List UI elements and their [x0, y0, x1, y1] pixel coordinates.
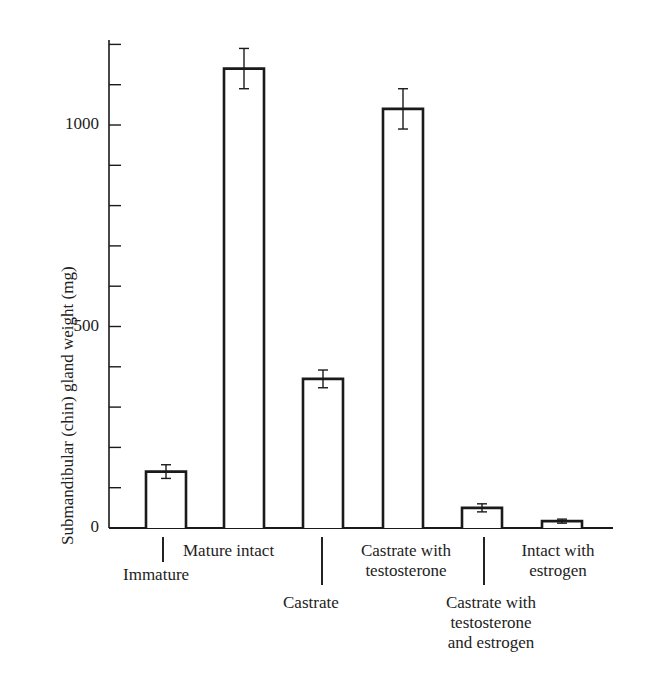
category-label-immature: Immature: [123, 565, 189, 585]
bar: [224, 69, 264, 528]
y-tick-label-500: 500: [49, 316, 99, 336]
label-line: Castrate with: [340, 541, 472, 561]
label-line: Intact with: [508, 541, 608, 561]
y-tick-label-0: 0: [49, 517, 99, 537]
y-axis-label: Submandibular (chin) gland weight (mg): [58, 266, 78, 545]
bar-chart: [0, 0, 647, 687]
label-line: testosterone: [424, 613, 558, 633]
bar: [303, 379, 343, 528]
bar: [383, 109, 423, 528]
bar: [146, 472, 186, 528]
category-label-castrate-testosterone-estrogen: Castrate with testosterone and estrogen: [424, 593, 558, 653]
category-label-castrate-testosterone: Castrate with testosterone: [340, 541, 472, 581]
category-label-mature-intact: Mature intact: [183, 541, 274, 561]
category-label-intact-estrogen: Intact with estrogen: [508, 541, 608, 581]
label-line: and estrogen: [424, 633, 558, 653]
label-line: testosterone: [340, 561, 472, 581]
label-line: estrogen: [508, 561, 608, 581]
category-separator: [162, 537, 164, 562]
category-separator: [483, 537, 485, 585]
category-separator: [321, 537, 323, 585]
category-label-castrate: Castrate: [283, 593, 339, 613]
y-tick-label-1000: 1000: [49, 114, 99, 134]
label-line: Castrate with: [424, 593, 558, 613]
